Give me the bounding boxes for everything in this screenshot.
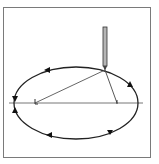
ellipse-diagram — [0, 0, 159, 164]
pencil-icon — [103, 27, 107, 71]
